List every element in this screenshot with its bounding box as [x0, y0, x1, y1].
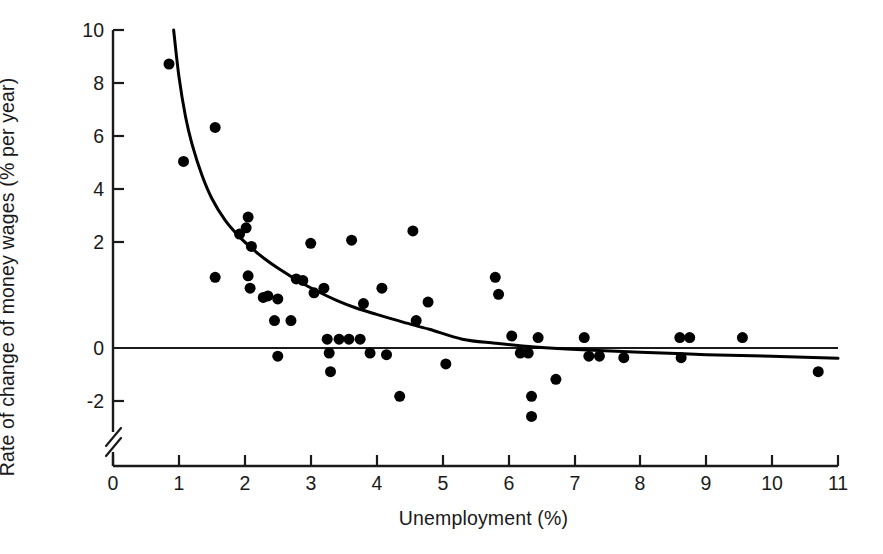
data-point — [343, 334, 354, 345]
phillips-curve-figure: 10 8 6 4 2 0 -2 0 1 2 3 4 5 6 7 8 9 10 1… — [0, 0, 883, 554]
data-point — [676, 352, 687, 363]
y-tick-label-4: 4 — [58, 178, 104, 201]
data-point — [245, 283, 256, 294]
x-axis-title-text: Unemployment (%) — [399, 507, 568, 530]
data-point — [526, 411, 537, 422]
data-point — [526, 391, 537, 402]
x-tick-label-10: 10 — [747, 472, 797, 495]
data-point — [285, 315, 296, 326]
data-point — [272, 293, 283, 304]
data-point — [579, 332, 590, 343]
y-tick-label-2: 2 — [58, 231, 104, 254]
data-point — [365, 348, 376, 359]
y-tick-label-10: 10 — [58, 19, 104, 42]
axis-lines — [113, 30, 838, 466]
data-point — [411, 315, 422, 326]
data-point — [210, 122, 221, 133]
data-point — [440, 358, 451, 369]
data-point — [737, 332, 748, 343]
x-axis-ticks — [113, 455, 838, 466]
data-point — [550, 374, 561, 385]
data-point — [164, 59, 175, 70]
y-axis-title-text: Rate of change of money wages (% per yea… — [0, 78, 19, 477]
data-point — [533, 332, 544, 343]
data-point — [346, 235, 357, 246]
y-tick-label-minus2: -2 — [52, 390, 104, 413]
data-point — [309, 287, 320, 298]
data-point — [684, 332, 695, 343]
data-point — [243, 212, 254, 223]
data-point — [262, 290, 273, 301]
data-point — [506, 331, 517, 342]
data-point — [523, 348, 534, 359]
data-point — [594, 351, 605, 362]
data-point — [246, 241, 257, 252]
y-axis-break-icon — [106, 428, 121, 456]
data-point — [243, 270, 254, 281]
data-point — [210, 272, 221, 283]
data-point — [394, 391, 405, 402]
data-point — [269, 315, 280, 326]
x-tick-label-6: 6 — [484, 472, 534, 495]
data-point — [583, 351, 594, 362]
y-axis-title: Rate of change of money wages (% per yea… — [0, 0, 40, 554]
y-axis-ticks — [113, 30, 124, 401]
data-point — [813, 366, 824, 377]
scatter-points — [164, 59, 824, 422]
chart-canvas — [0, 0, 883, 554]
data-point — [325, 366, 336, 377]
data-point — [305, 238, 316, 249]
x-tick-label-4: 4 — [352, 472, 402, 495]
fitted-phillips-curve — [174, 30, 838, 358]
data-point — [490, 272, 501, 283]
data-point — [381, 349, 392, 360]
data-point — [324, 348, 335, 359]
data-point — [493, 289, 504, 300]
data-point — [423, 297, 434, 308]
x-tick-label-8: 8 — [615, 472, 665, 495]
data-point — [318, 283, 329, 294]
x-tick-label-2: 2 — [220, 472, 270, 495]
x-axis-title: Unemployment (%) — [0, 507, 883, 530]
data-point — [334, 334, 345, 345]
x-tick-label-3: 3 — [286, 472, 336, 495]
data-point — [272, 351, 283, 362]
data-point — [674, 332, 685, 343]
x-tick-label-1: 1 — [154, 472, 204, 495]
y-tick-label-8: 8 — [58, 72, 104, 95]
data-point — [355, 334, 366, 345]
x-tick-label-0: 0 — [88, 472, 138, 495]
x-tick-label-5: 5 — [418, 472, 468, 495]
data-point — [241, 222, 252, 233]
data-point — [297, 275, 308, 286]
x-tick-label-11: 11 — [813, 472, 863, 495]
x-tick-label-9: 9 — [681, 472, 731, 495]
x-tick-label-7: 7 — [550, 472, 600, 495]
data-point — [322, 334, 333, 345]
data-point — [178, 156, 189, 167]
y-tick-label-0: 0 — [58, 337, 104, 360]
data-point — [407, 225, 418, 236]
data-point — [358, 298, 369, 309]
y-tick-label-6: 6 — [58, 125, 104, 148]
data-point — [618, 352, 629, 363]
data-point — [376, 283, 387, 294]
